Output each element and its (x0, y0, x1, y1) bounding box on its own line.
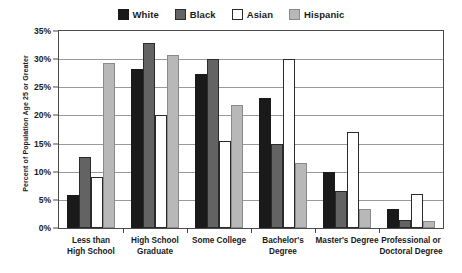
bar-black (271, 144, 283, 228)
x-axis-tick-mark (187, 229, 188, 233)
bar-group (315, 31, 379, 228)
education-attainment-bar-chart: WhiteBlackAsianHispanic Percent of Popul… (0, 0, 462, 273)
bar-white (259, 98, 271, 228)
x-axis-tick-mark (379, 229, 380, 233)
y-axis-tick-label: 15% (34, 139, 51, 149)
legend-label: Hispanic (304, 10, 344, 20)
x-axis-label-line: Graduate (117, 247, 193, 258)
x-axis-label-line: Degree (245, 247, 321, 258)
legend-label: White (133, 10, 159, 20)
y-axis-tick-label: 20% (34, 110, 51, 120)
bar-white (195, 74, 207, 228)
x-axis-tick-mark (251, 229, 252, 233)
bars-layer (59, 31, 443, 228)
legend-item-white: White (118, 9, 159, 20)
bar-white (387, 209, 399, 228)
bar-group (59, 31, 123, 228)
legend-label: Black (190, 10, 216, 20)
x-axis-tick-mark (123, 229, 124, 233)
bar-asian (283, 59, 295, 228)
bar-group (379, 31, 443, 228)
y-axis-tick-label: 10% (34, 167, 51, 177)
y-axis-tick-label: 30% (34, 54, 51, 64)
bar-black (79, 157, 91, 228)
bar-hispanic (359, 209, 371, 228)
y-axis-ticks: 0%5%10%15%20%25%30%35% (0, 30, 58, 229)
x-axis-category-label: Professional orDoctoral Degree (373, 236, 449, 257)
legend-item-hispanic: Hispanic (289, 9, 344, 20)
legend-swatch-asian-icon (232, 9, 243, 20)
bar-hispanic (167, 55, 179, 228)
legend-item-asian: Asian (232, 9, 273, 20)
x-axis-label-line: Doctoral Degree (373, 247, 449, 258)
y-axis-tick-label: 0% (39, 223, 51, 233)
x-axis-tick-mark (315, 229, 316, 233)
bar-asian (91, 177, 103, 228)
legend-item-black: Black (175, 9, 216, 20)
bar-asian (411, 194, 423, 228)
bar-white (323, 172, 335, 228)
x-axis-label-line: Professional or (373, 236, 449, 247)
x-axis-ticks: Less thanHigh SchoolHigh SchoolGraduateS… (59, 229, 443, 273)
bar-asian (347, 132, 359, 228)
bar-hispanic (423, 221, 435, 228)
bar-group (187, 31, 251, 228)
legend-swatch-hispanic-icon (289, 9, 300, 20)
y-axis-tick-label: 35% (34, 26, 51, 36)
bar-hispanic (103, 63, 115, 228)
legend-swatch-white-icon (118, 9, 129, 20)
bar-hispanic (295, 163, 307, 228)
legend-swatch-black-icon (175, 9, 186, 20)
bar-black (143, 43, 155, 228)
chart-legend: WhiteBlackAsianHispanic (0, 9, 462, 20)
bar-white (67, 195, 79, 228)
bar-black (399, 220, 411, 228)
bar-group (123, 31, 187, 228)
bar-asian (219, 141, 231, 228)
bar-hispanic (231, 105, 243, 228)
bar-black (207, 59, 219, 228)
bar-white (131, 69, 143, 228)
y-axis-tick-label: 25% (34, 82, 51, 92)
y-axis-tick-label: 5% (39, 195, 51, 205)
bar-asian (155, 115, 167, 228)
legend-label: Asian (247, 10, 273, 20)
bar-group (251, 31, 315, 228)
bar-black (335, 191, 347, 228)
